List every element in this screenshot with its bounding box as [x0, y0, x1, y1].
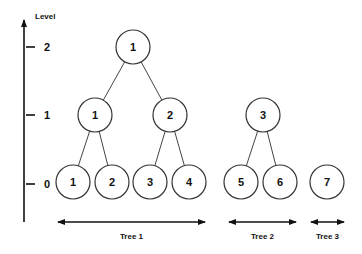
tick-label: 0	[44, 178, 50, 190]
tree-spans: Tree 1Tree 2Tree 3	[58, 222, 344, 241]
node-label: 2	[167, 109, 173, 121]
node-label: 2	[109, 176, 115, 188]
tree-edge	[175, 131, 185, 165]
tree-nodes: 11231234567	[56, 30, 344, 199]
node-label: 1	[92, 109, 98, 121]
tree-edge	[78, 131, 89, 166]
tree-node: 7	[310, 165, 344, 199]
axis-title: Level	[35, 12, 55, 21]
tree-edge	[246, 131, 257, 166]
node-label: 3	[147, 176, 153, 188]
tree-node: 4	[172, 165, 206, 199]
node-label: 4	[186, 176, 193, 188]
node-label: 1	[130, 41, 136, 53]
tree-edge	[141, 62, 162, 100]
node-label: 5	[238, 176, 244, 188]
tick-label: 1	[44, 109, 50, 121]
tree-node: 1	[116, 30, 150, 64]
tree-span-label: Tree 1	[120, 232, 144, 241]
tree-node: 3	[133, 165, 167, 199]
level-tick: 0	[26, 178, 50, 190]
tree-level-diagram: Level 210 11231234567 Tree 1Tree 2Tree 3	[0, 0, 362, 254]
tree-span: Tree 2	[229, 222, 296, 241]
tree-node: 2	[153, 98, 187, 132]
tree-edge	[103, 62, 124, 100]
tree-edge	[267, 131, 276, 165]
tree-span-label: Tree 3	[316, 232, 340, 241]
tree-span: Tree 3	[311, 222, 344, 241]
tree-edge	[99, 131, 108, 165]
level-tick: 1	[26, 109, 50, 121]
node-label: 1	[70, 176, 76, 188]
tree-node: 1	[56, 165, 90, 199]
level-tick: 2	[26, 41, 50, 53]
tree-node: 6	[263, 165, 297, 199]
node-label: 6	[277, 176, 283, 188]
node-label: 3	[260, 109, 266, 121]
tree-edge	[155, 131, 165, 165]
node-label: 7	[324, 176, 330, 188]
tree-node: 2	[95, 165, 129, 199]
level-axis: Level 210	[24, 12, 55, 222]
tree-span-label: Tree 2	[251, 232, 275, 241]
tick-label: 2	[44, 41, 50, 53]
tree-node: 1	[78, 98, 112, 132]
tree-span: Tree 1	[58, 222, 205, 241]
tree-node: 3	[246, 98, 280, 132]
tree-node: 5	[224, 165, 258, 199]
